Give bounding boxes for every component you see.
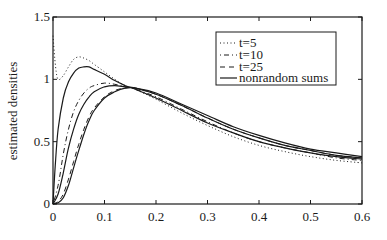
x-tick-label: 0.2 [148, 209, 164, 224]
series-line-solid [53, 87, 362, 204]
series-line-dashdot [53, 83, 362, 204]
x-tick-label: 0.5 [302, 209, 318, 224]
x-tick-label: 0.1 [96, 209, 112, 224]
legend: t=5 t=10 t=25 nonrandom sums [216, 32, 336, 85]
series-line-dashed [53, 87, 362, 204]
y-tick-label: 0.5 [34, 134, 50, 149]
x-tick-label: 0 [50, 209, 57, 224]
y-tick-label: 0 [44, 196, 51, 211]
x-tick-label: 0.3 [199, 209, 215, 224]
y-axis-label: estimated densities [5, 62, 20, 161]
legend-label: nonrandom sums [239, 70, 328, 85]
y-tick-label: 1.5 [34, 9, 50, 24]
series-line-solid [53, 67, 362, 204]
x-tick-label: 0.6 [354, 209, 371, 224]
y-tick-label: 1 [44, 71, 51, 86]
density-chart: 00.10.20.30.40.50.6 00.511.5 estimated d… [0, 0, 387, 240]
x-tick-label: 0.4 [251, 209, 268, 224]
